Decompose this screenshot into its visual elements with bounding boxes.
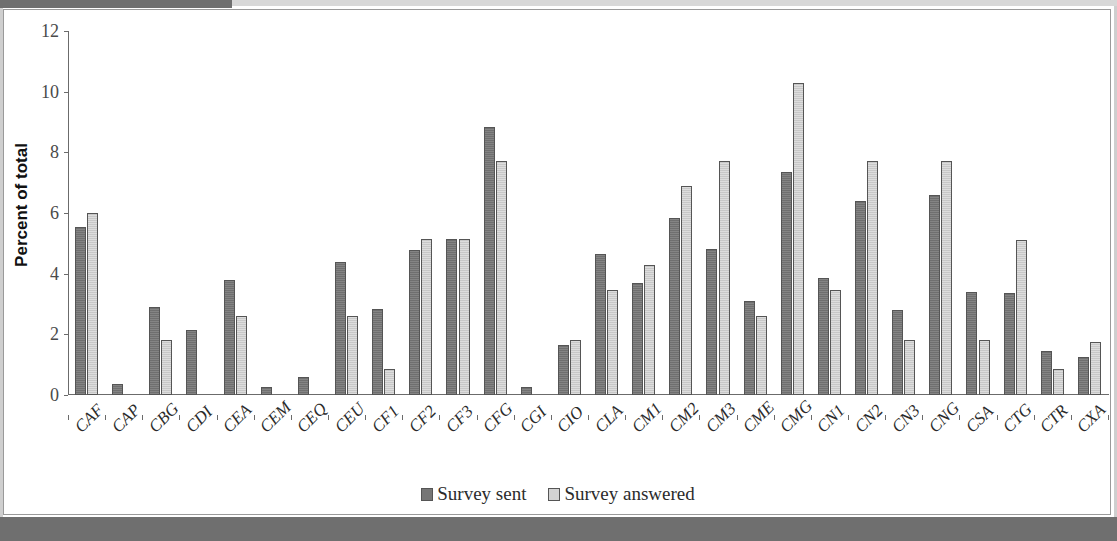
x-axis-label-cxa: CXA	[1073, 400, 1110, 437]
y-axis-tick-mark	[64, 274, 68, 275]
y-axis-tick-label: 2	[50, 324, 59, 345]
bar-cdi-survey-sent	[186, 330, 197, 395]
bar-cm1-survey-sent	[632, 283, 643, 395]
bar-cmg-survey-sent	[781, 172, 792, 395]
bar-cgi-survey-sent	[521, 387, 532, 395]
x-axis-label-cm2: CM2	[665, 399, 703, 437]
y-axis-tick-label: 12	[41, 21, 59, 42]
x-axis-tick-mark	[1034, 415, 1035, 420]
x-axis-tick-mark	[997, 415, 998, 420]
bar-cme-survey-answered	[756, 316, 767, 395]
bar-cf1-survey-answered	[384, 369, 395, 395]
bar-cfg-survey-sent	[484, 127, 495, 395]
x-axis-tick-mark	[105, 415, 106, 420]
bar-cio-survey-sent	[558, 345, 569, 395]
y-axis-tick-mark	[64, 395, 68, 396]
bar-cng-survey-sent	[929, 195, 940, 395]
x-axis-label-cap: CAP	[108, 400, 145, 437]
x-axis-tick-mark	[922, 415, 923, 420]
x-axis-tick-mark	[1071, 415, 1072, 420]
x-axis-tick-mark	[588, 415, 589, 420]
x-axis-label-cng: CNG	[925, 398, 964, 437]
bar-ctg-survey-answered	[1016, 240, 1027, 395]
x-axis-label-cn3: CN3	[888, 401, 924, 437]
x-axis-label-cm1: CM1	[628, 399, 666, 437]
x-axis-tick-mark	[402, 415, 403, 420]
x-axis-label-cf2: CF2	[405, 402, 441, 438]
x-axis-tick-mark	[737, 415, 738, 420]
bar-cm2-survey-sent	[669, 218, 680, 395]
bar-cla-survey-sent	[595, 254, 606, 395]
legend-item-survey-answered: Survey answered	[548, 483, 694, 505]
bar-cio-survey-answered	[570, 340, 581, 395]
x-axis-label-caf: CAF	[71, 400, 108, 437]
bar-cn3-survey-sent	[892, 310, 903, 395]
bar-ctr-survey-answered	[1053, 369, 1064, 395]
bar-ceq-survey-sent	[298, 377, 309, 395]
x-axis-label-ctg: CTG	[999, 400, 1037, 438]
x-axis-label-cfg: CFG	[479, 399, 517, 437]
x-axis-tick-mark	[217, 415, 218, 420]
x-axis-label-cn1: CN1	[813, 401, 849, 437]
x-axis-label-cm3: CM3	[702, 399, 740, 437]
x-axis-tick-mark	[328, 415, 329, 420]
x-axis-label-ceq: CEQ	[293, 399, 331, 437]
y-axis-tick-mark	[64, 334, 68, 335]
bar-cf2-survey-sent	[409, 250, 420, 395]
x-axis-tick-mark	[699, 415, 700, 420]
bar-cf2-survey-answered	[421, 239, 432, 395]
x-axis-label-cf3: CF3	[442, 402, 478, 438]
x-axis-label-cbg: CBG	[145, 399, 183, 437]
bar-cxa-survey-sent	[1078, 357, 1089, 395]
y-axis-tick-label: 6	[50, 203, 59, 224]
bar-cf1-survey-sent	[372, 309, 383, 395]
x-axis-tick-mark	[885, 415, 886, 420]
x-axis-tick-mark	[68, 415, 69, 420]
bar-cm3-survey-answered	[719, 161, 730, 395]
bar-ceu-survey-sent	[335, 262, 346, 395]
scan-band-top	[0, 0, 232, 8]
legend-label-survey-answered: Survey answered	[564, 483, 694, 505]
x-axis-tick-mark	[551, 415, 552, 420]
x-axis-tick-mark	[365, 415, 366, 420]
y-axis-tick-label: 4	[50, 263, 59, 284]
chart-legend: Survey sent Survey answered	[4, 483, 1112, 505]
bar-cn3-survey-answered	[904, 340, 915, 395]
x-axis-label-cn2: CN2	[851, 401, 887, 437]
x-axis-label-cgi: CGI	[516, 402, 551, 437]
legend-item-survey-sent: Survey sent	[421, 483, 526, 505]
plot-area: 024681012CAFCAPCBGCDICEACEMCEQCEUCF1CF2C…	[68, 31, 1108, 395]
bar-cea-survey-sent	[224, 280, 235, 395]
x-axis-label-cdi: CDI	[182, 402, 217, 437]
bar-cf3-survey-sent	[446, 239, 457, 395]
x-axis-label-cla: CLA	[591, 401, 627, 437]
x-axis-tick-mark	[514, 415, 515, 420]
x-axis-tick-mark	[439, 415, 440, 420]
bar-cn2-survey-answered	[867, 161, 878, 395]
bar-cn2-survey-sent	[855, 201, 866, 395]
x-axis-tick-mark	[625, 415, 626, 420]
bar-ctg-survey-sent	[1004, 293, 1015, 395]
bar-ctr-survey-sent	[1041, 351, 1052, 395]
x-axis-tick-mark	[254, 415, 255, 420]
bar-cm3-survey-sent	[706, 249, 717, 395]
bar-cea-survey-answered	[236, 316, 247, 395]
bar-cmg-survey-answered	[793, 83, 804, 395]
y-axis-tick-mark	[64, 92, 68, 93]
legend-swatch-icon-survey-sent	[421, 488, 433, 501]
legend-swatch-icon-survey-answered	[548, 488, 560, 501]
chart-page: Percent of total 024681012CAFCAPCBGCDICE…	[0, 0, 1117, 541]
y-axis-tick-label: 0	[50, 385, 59, 406]
x-axis-tick-mark	[811, 415, 812, 420]
bar-cme-survey-sent	[744, 301, 755, 395]
x-axis-tick-mark	[662, 415, 663, 420]
bar-cbg-survey-sent	[149, 307, 160, 395]
bar-cla-survey-answered	[607, 290, 618, 395]
x-axis-tick-mark	[179, 415, 180, 420]
bar-cng-survey-answered	[941, 161, 952, 395]
x-axis-label-cio: CIO	[553, 402, 588, 437]
y-axis-tick-mark	[64, 213, 68, 214]
bar-cf3-survey-answered	[459, 239, 470, 395]
scan-band-top-right	[232, 0, 1117, 6]
chart-frame: Percent of total 024681012CAFCAPCBGCDICE…	[3, 9, 1111, 515]
